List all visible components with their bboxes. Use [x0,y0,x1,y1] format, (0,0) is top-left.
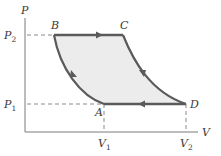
y-axis-label: P [20,4,29,17]
p1-label: P1 [3,98,16,113]
pv-diagram: P V P2 P1 V1 V2 B C D A [0,0,221,156]
point-c-label: C [120,19,129,32]
x-axis-label: V [202,126,211,139]
v1-label: V1 [98,137,111,152]
point-b-label: B [50,19,59,32]
p2-label: P2 [3,29,16,44]
v2-label: V2 [180,137,193,152]
point-d-label: D [189,98,199,111]
point-a-label: A [94,106,103,119]
